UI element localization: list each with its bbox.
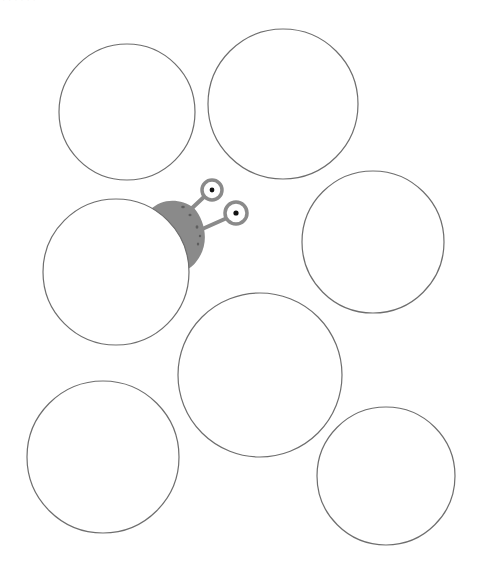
eye-2-icon (225, 202, 247, 224)
circle-group (27, 29, 455, 545)
circle-6 (27, 381, 179, 533)
circle-3 (302, 171, 444, 313)
circle-7 (317, 407, 455, 545)
worksheet-canvas (0, 0, 480, 573)
circle-1 (59, 44, 195, 180)
eye-1-icon (202, 180, 222, 200)
circle-2 (208, 29, 358, 179)
circle-5 (178, 293, 342, 457)
circle-4 (43, 199, 189, 345)
eye-stalk-2 (200, 218, 227, 230)
